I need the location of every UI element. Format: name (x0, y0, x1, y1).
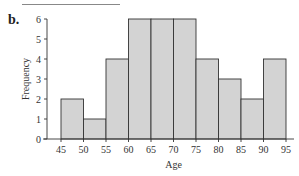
histogram-bar-70-75 (174, 19, 197, 139)
histogram-bar-55-60 (106, 59, 129, 139)
histogram-bar-90-95 (264, 59, 287, 139)
histogram-bar-85-90 (241, 99, 264, 139)
histogram-bar-65-70 (151, 19, 174, 139)
histogram-chart: 4550556065707580859095 0123456 Age Frequ… (0, 0, 299, 176)
x-tick-label-80: 80 (214, 144, 224, 155)
y-tick-label-5: 5 (36, 34, 41, 45)
y-axis-label: Frequency (20, 58, 31, 100)
x-tick-label-45: 45 (56, 144, 66, 155)
histogram-bar-75-80 (196, 59, 219, 139)
histogram-bar-60-65 (129, 19, 152, 139)
histogram-bar-45-50 (61, 99, 84, 139)
y-tick-label-2: 2 (36, 94, 41, 105)
x-tick-label-65: 65 (146, 144, 156, 155)
x-tick-label-60: 60 (124, 144, 134, 155)
y-tick-label-6: 6 (36, 14, 41, 25)
x-tick-label-75: 75 (191, 144, 201, 155)
histogram-bar-50-55 (84, 119, 107, 139)
y-tick-label-0: 0 (36, 134, 41, 145)
x-axis-label: Age (165, 159, 182, 170)
x-tick-label-50: 50 (79, 144, 89, 155)
y-tick-label-3: 3 (36, 74, 41, 85)
y-tick-label-4: 4 (36, 54, 41, 65)
x-tick-label-70: 70 (169, 144, 179, 155)
x-tick-label-85: 85 (236, 144, 246, 155)
x-tick-label-55: 55 (101, 144, 111, 155)
y-tick-label-1: 1 (36, 114, 41, 125)
x-tick-label-95: 95 (281, 144, 291, 155)
histogram-bar-80-85 (219, 79, 242, 139)
x-tick-label-90: 90 (259, 144, 269, 155)
